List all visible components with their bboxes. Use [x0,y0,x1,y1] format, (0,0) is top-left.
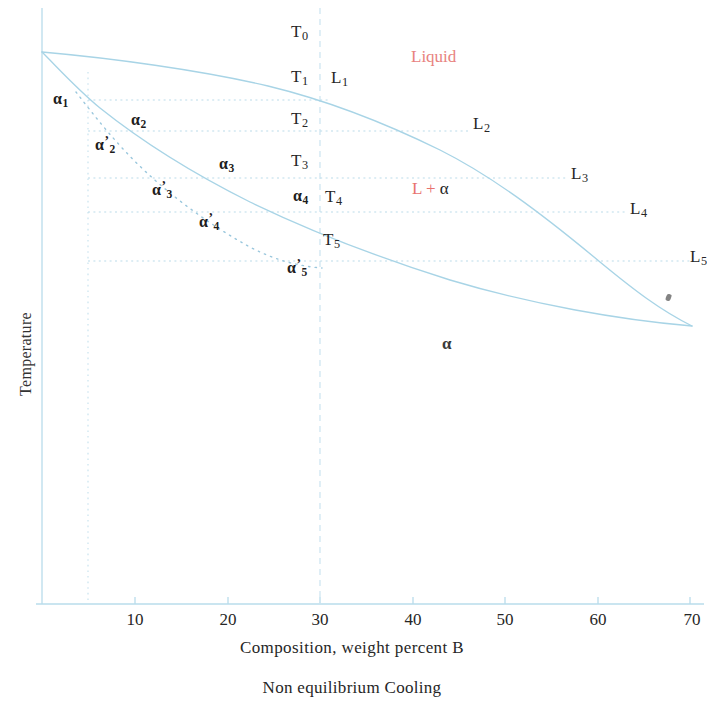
liquid-point-label-L4: L4 [630,200,647,220]
alpha-point-label-a1: α1 [53,91,68,110]
vertical-guide-lines [88,8,320,604]
x-tick-label-40: 40 [405,610,422,630]
temperature-label-T0: T0 [291,23,308,43]
region-label-liquid-plus-alpha: L + α [412,180,449,197]
alpha-point-label-a4: α4 [293,188,308,207]
alpha-point-label-a2: α2 [131,112,146,131]
y-axis-title: Temperature [17,284,35,424]
x-tick-label-60: 60 [590,610,607,630]
alpha-point-label-a3: α3 [219,156,234,175]
liquid-point-label-L1: L1 [331,69,348,89]
alpha-point-label-a5-prime: α’5 [287,258,307,279]
liquid-point-label-L2: L2 [473,115,490,135]
temperature-label-T3: T3 [291,152,308,172]
x-axis-title: Composition, weight percent B [0,638,704,658]
region-label-liquid: Liquid [411,48,456,65]
liquid-point-label-L5: L5 [690,248,707,268]
x-tick-label-20: 20 [220,610,237,630]
temperature-label-T5: T5 [323,231,340,251]
liquid-point-label-L3: L3 [571,165,588,185]
liquidus-curve [42,52,692,326]
region-label-l-plus: L + [412,179,436,198]
region-label-alpha-glyph: α [440,179,449,198]
temperature-label-T1: T1 [291,68,308,88]
alpha-point-label-a3-prime: α’3 [152,180,172,201]
alpha-point-label-a2-prime: α’2 [95,135,115,156]
region-label-alpha: α [442,335,452,352]
figure-caption: Non equilibrium Cooling [0,678,704,698]
x-tick-label-70: 70 [684,610,701,630]
temperature-label-T4: T4 [325,188,342,208]
tie-lines-group [88,100,690,261]
x-tick-label-50: 50 [497,610,514,630]
x-tick-label-30: 30 [312,610,329,630]
solidus-curve [42,52,692,326]
axes-group [36,8,704,604]
alpha-point-label-a4-prime: α’4 [199,212,219,233]
x-axis-ticks [135,597,690,604]
x-tick-label-10: 10 [127,610,144,630]
temperature-label-T2: T2 [291,110,308,130]
